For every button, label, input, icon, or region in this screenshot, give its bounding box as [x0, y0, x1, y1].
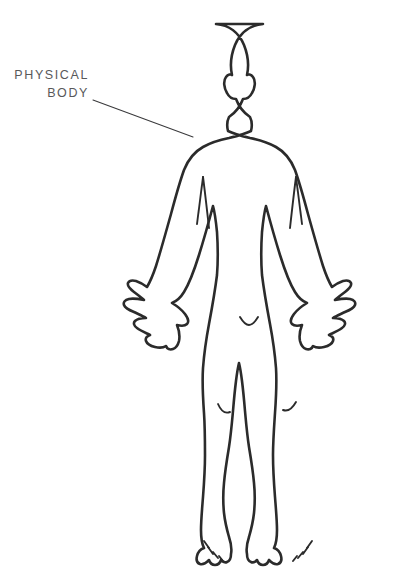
right-knee-arc — [283, 402, 296, 411]
leader-line — [93, 100, 193, 137]
label-line-physical: PHYSICAL — [14, 68, 89, 82]
body-diagram-svg: PHYSICAL BODY — [0, 0, 412, 587]
body-silhouette-path — [124, 24, 356, 565]
right-foot-toes — [293, 541, 312, 561]
diagram-canvas: PHYSICAL BODY — [0, 0, 412, 587]
label-line-body: BODY — [47, 86, 89, 100]
